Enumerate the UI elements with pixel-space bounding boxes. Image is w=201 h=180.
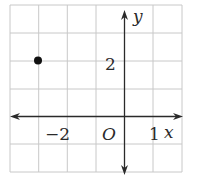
coordinate-plane: y 2 −2 O 1 x <box>0 0 201 180</box>
y-axis <box>121 10 128 175</box>
x-tick-label-1: 1 <box>149 124 160 144</box>
origin-label: O <box>102 124 116 144</box>
plotted-point <box>34 57 42 65</box>
x-tick-label-neg2: −2 <box>45 124 70 144</box>
x-axis-label: x <box>164 122 174 142</box>
y-axis-label: y <box>132 6 143 26</box>
grid <box>10 5 182 172</box>
y-tick-label-2: 2 <box>105 54 116 74</box>
